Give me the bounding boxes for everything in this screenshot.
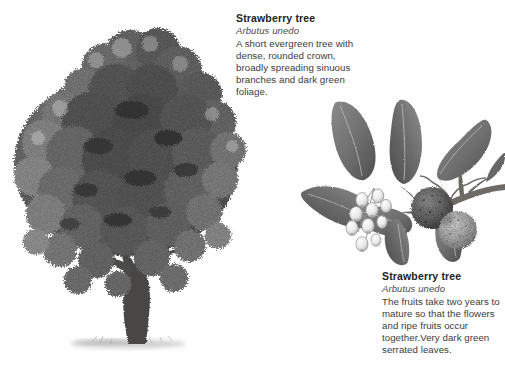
caption-bottom-latin-name: Arbutus unedo (382, 283, 504, 295)
whole-tree-svg (0, 14, 250, 359)
caption-top: Strawberry tree Arbutus unedo A short ev… (236, 12, 358, 98)
fruit-contact-shadow (438, 215, 454, 225)
caption-bottom-common-name: Strawberry tree (382, 270, 504, 283)
caption-top-common-name: Strawberry tree (236, 12, 358, 25)
caption-top-description: A short evergreen tree with dense, round… (236, 38, 358, 98)
caption-bottom: Strawberry tree Arbutus unedo The fruits… (382, 270, 504, 356)
botanical-plate-page: Strawberry tree Arbutus unedo A short ev… (0, 0, 505, 370)
whole-tree-illustration (0, 14, 250, 359)
leaf (390, 100, 422, 184)
caption-bottom-description: The fruits take two years to mature so t… (382, 296, 504, 356)
fruiting-branch-svg (300, 96, 505, 268)
fruiting-branch-illustration (300, 96, 505, 268)
leaf (332, 101, 376, 180)
leaf (486, 152, 505, 182)
tree-foliage-clusters (14, 28, 246, 297)
branch-leaves (301, 100, 505, 265)
leaf (437, 120, 491, 181)
caption-top-latin-name: Arbutus unedo (236, 25, 358, 37)
